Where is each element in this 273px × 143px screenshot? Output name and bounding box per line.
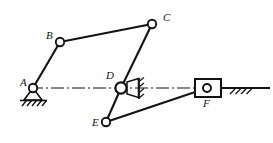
joint-F[interactable] — [203, 84, 211, 92]
link-AB — [33, 42, 60, 88]
ground-guide-right — [221, 88, 270, 94]
label-B: B — [46, 29, 53, 41]
label-A: A — [19, 76, 27, 88]
ground-hatching-A-icon — [22, 101, 47, 107]
linkage-mechanism-diagram: A B C D E F — [0, 0, 273, 143]
link-BC — [60, 24, 152, 42]
joint-E[interactable] — [102, 118, 110, 126]
label-E: E — [91, 116, 99, 128]
joint-group — [29, 20, 211, 126]
label-F: F — [202, 97, 210, 109]
joint-D[interactable] — [115, 82, 126, 93]
ground-hatching-right-icon — [230, 89, 252, 94]
diagram-canvas: A B C D E F — [0, 0, 273, 143]
joint-B[interactable] — [56, 38, 64, 46]
label-D: D — [105, 69, 114, 81]
joint-A[interactable] — [29, 84, 37, 92]
label-C: C — [163, 11, 171, 23]
joint-C[interactable] — [148, 20, 156, 28]
joint-label-group: A B C D E F — [19, 11, 210, 128]
